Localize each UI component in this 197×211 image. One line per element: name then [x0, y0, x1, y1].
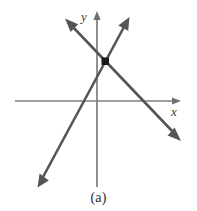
line-ascending-segment — [43, 27, 124, 177]
x-axis — [15, 97, 181, 104]
line-descending-segment — [71, 25, 174, 133]
y-axis-label: y — [79, 9, 87, 24]
coordinate-graph: y x — [0, 0, 197, 211]
intersection-point-marker — [102, 58, 110, 66]
line-descending — [65, 19, 181, 142]
y-axis — [93, 11, 100, 187]
figure-caption: (a) — [0, 189, 197, 207]
figure-container: y x (a) — [0, 0, 197, 211]
x-axis-label: x — [170, 104, 177, 119]
line-ascending — [38, 17, 130, 188]
y-axis-arrowhead-icon — [93, 11, 100, 20]
